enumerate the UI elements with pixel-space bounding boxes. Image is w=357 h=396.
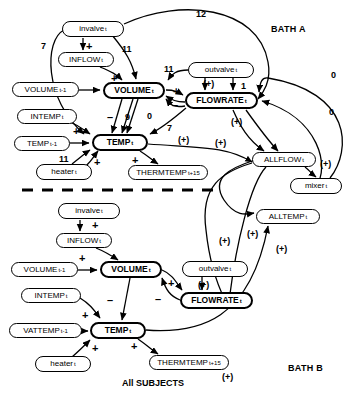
node-label: INFLOW — [67, 237, 98, 245]
node-alltemp[interactable]: ALLTEMPt — [256, 209, 320, 224]
node-volume_prev[interactable]: VOLUMEt-1 — [12, 82, 79, 97]
node-subscript: t — [100, 208, 103, 214]
node-subscript: t — [73, 361, 76, 367]
node-subscript: t — [235, 67, 238, 73]
node-inflow[interactable]: INFLOWt — [58, 52, 114, 67]
diagram-canvas: invalvetINFLOWtVOLUMEt-1VOLUMEtoutvalvet… — [0, 0, 357, 396]
node-intemp[interactable]: INTEMPt — [17, 109, 77, 124]
edge-sign-label: + — [79, 253, 85, 264]
node-flowrate_b[interactable]: FLOWRATEt — [180, 292, 253, 309]
node-label: THERMTEMP — [136, 169, 187, 177]
node-thermtemp[interactable]: THERMTEMPt+15 — [128, 165, 208, 180]
node-label: VATTEMP — [23, 327, 60, 335]
node-subscript: t — [61, 114, 64, 120]
edge-sign-label: – — [107, 112, 113, 123]
node-subscript: t — [229, 266, 232, 272]
edge-sign-label: – — [155, 294, 161, 305]
node-label: heater — [50, 360, 73, 368]
node-label: mixer — [305, 182, 325, 190]
node-mixer[interactable]: mixert — [290, 178, 342, 194]
edge-weight-label: 11 — [122, 45, 132, 54]
node-subscript: t-1 — [49, 141, 57, 147]
node-label: heater — [51, 168, 74, 176]
node-subscript: t — [305, 214, 308, 220]
node-label: VOLUME — [24, 266, 58, 274]
node-inflow_b[interactable]: INFLOWt — [56, 233, 112, 248]
edge-sign-label: (+) — [231, 118, 242, 127]
node-invalve_b[interactable]: invalvet — [58, 203, 120, 219]
edge-weight-label: 11 — [59, 155, 69, 164]
node-subscript: t — [104, 26, 107, 32]
edge-sign-label: + — [73, 126, 79, 137]
node-label: invalve — [79, 25, 104, 33]
node-invalve[interactable]: invalvet — [62, 21, 124, 37]
node-flowrate[interactable]: FLOWRATEt — [185, 92, 258, 109]
node-subscript: t — [98, 238, 101, 244]
edge-sign-label: + — [132, 155, 138, 166]
node-label: ALLTEMP — [269, 213, 305, 221]
figure-caption: All SUBJECTS — [122, 378, 184, 388]
edge-weight-label: 0 — [147, 112, 152, 121]
node-subscript: t-1 — [60, 328, 68, 334]
edge-sign-label: + — [94, 157, 100, 168]
node-volume[interactable]: VOLUMEt — [103, 82, 165, 99]
edge-sign-label: + — [82, 310, 88, 321]
node-thermtemp_b[interactable]: THERMTEMPt+15 — [149, 355, 229, 370]
node-volume_prev_b[interactable]: VOLUMEt-1 — [11, 262, 78, 277]
edge-sign-label: + — [131, 341, 137, 352]
node-label: VOLUME — [25, 86, 59, 94]
node-label: FLOWRATE — [196, 96, 244, 105]
node-volume_b[interactable]: VOLUMEt — [100, 261, 162, 278]
node-label: invalve — [75, 207, 100, 215]
edge-sign-label: – — [172, 100, 178, 111]
node-subscript: t-1 — [58, 87, 66, 93]
node-subscript: t — [148, 267, 151, 273]
edge-weight-label: 7 — [167, 124, 172, 133]
node-subscript: t-1 — [57, 267, 65, 273]
node-subscript: t — [100, 57, 103, 63]
edge-sign-label: (+) — [203, 80, 214, 89]
node-heater_b[interactable]: heatert — [35, 356, 91, 372]
edge-sign-label: + — [111, 73, 117, 84]
node-label: THERMTEMP — [157, 359, 208, 367]
node-intemp_b[interactable]: INTEMPt — [21, 288, 81, 303]
edge-sign-label: (+) — [215, 139, 226, 148]
node-subscript: t — [65, 293, 68, 299]
edge-sign-label: – — [107, 295, 113, 306]
panel-label-bath-a: BATH A — [271, 24, 306, 34]
edge-sign-label: (+) — [178, 136, 189, 145]
node-label: INFLOW — [69, 56, 100, 64]
node-temp_prev[interactable]: TEMPt-1 — [14, 136, 70, 151]
node-allflow[interactable]: ALLFLOWt — [252, 152, 316, 167]
edge-sign-label: (+) — [276, 245, 287, 254]
node-vattemp_prev[interactable]: VATTEMPt-1 — [9, 323, 82, 338]
node-label: INTEMP — [31, 113, 61, 121]
node-label: VOLUME — [111, 265, 147, 274]
edge-sign-label: + — [92, 343, 98, 354]
edge-sign-label: + — [92, 220, 98, 231]
edge-sign-label: (+) — [320, 160, 331, 169]
node-outvalve_b[interactable]: outvalvet — [182, 261, 248, 277]
node-outvalve[interactable]: outvalvet — [188, 62, 254, 78]
node-subscript: t — [151, 88, 154, 94]
edge-weight-label: 7 — [41, 42, 46, 51]
node-subscript: t — [301, 157, 304, 163]
edge-sign-label: + — [86, 41, 92, 52]
node-temp_b[interactable]: TEMPt — [90, 322, 146, 339]
edge-weight-label: 9 — [125, 113, 130, 122]
edge-sign-label: + — [173, 86, 179, 97]
edge-sign-label: (+) — [222, 373, 233, 382]
node-label: TEMP — [27, 140, 49, 148]
node-subscript: t — [130, 140, 133, 146]
node-label: TEMP — [105, 326, 129, 335]
edge-weight-label: 1 — [241, 82, 246, 91]
node-label: outvalve — [199, 265, 229, 273]
node-subscript: t — [324, 183, 327, 189]
node-label: VOLUME — [114, 86, 150, 95]
node-heater[interactable]: heatert — [36, 164, 92, 180]
node-subscript: t — [244, 98, 247, 104]
node-label: FLOWRATE — [191, 296, 239, 305]
node-subscript: t — [128, 328, 131, 334]
node-temp[interactable]: TEMPt — [92, 134, 148, 151]
node-label: ALLFLOW — [264, 156, 301, 164]
